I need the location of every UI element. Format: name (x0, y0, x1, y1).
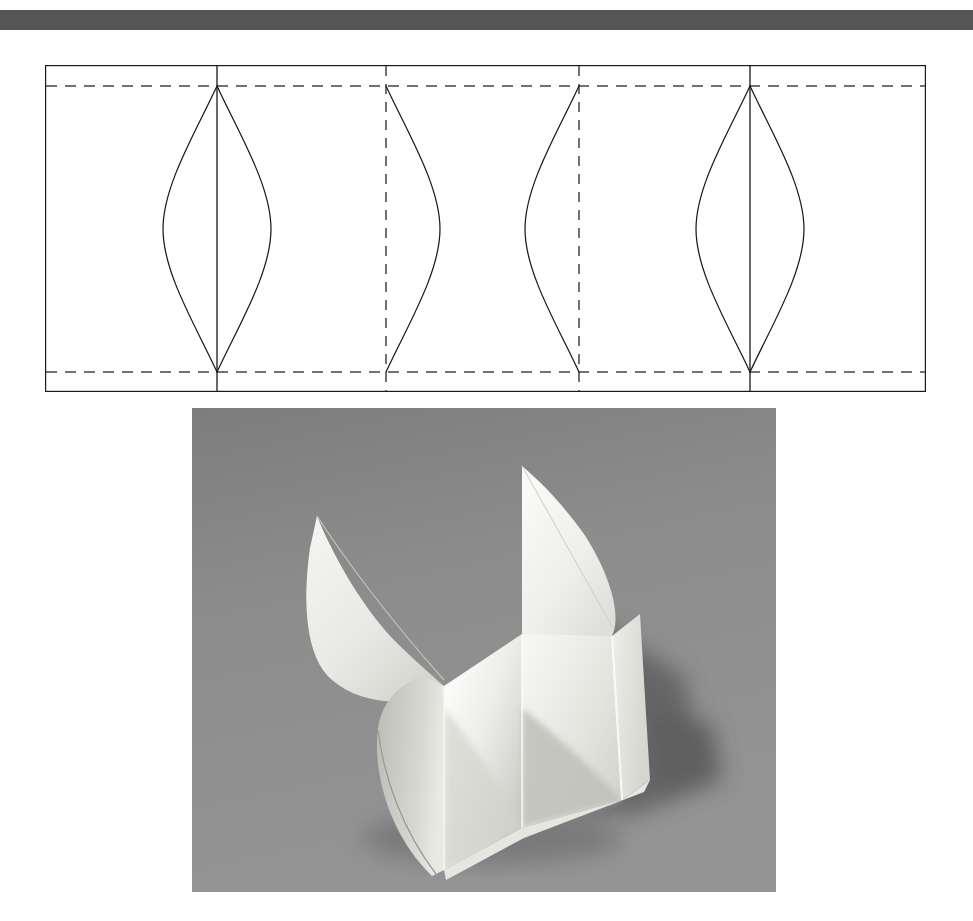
pattern-diagram: Flat development: rectangular strip divi… (45, 65, 926, 392)
photo-grain-overlay (192, 408, 776, 892)
model-photograph-svg (192, 408, 776, 892)
pattern-diagram-svg (45, 65, 926, 392)
model-photograph: Black and white photograph of a white pa… (192, 408, 776, 892)
horizontal-rule (0, 10, 973, 30)
pattern-panel-fill (46, 66, 926, 392)
plate-page: Folded paper form: development pattern a… (0, 0, 973, 921)
